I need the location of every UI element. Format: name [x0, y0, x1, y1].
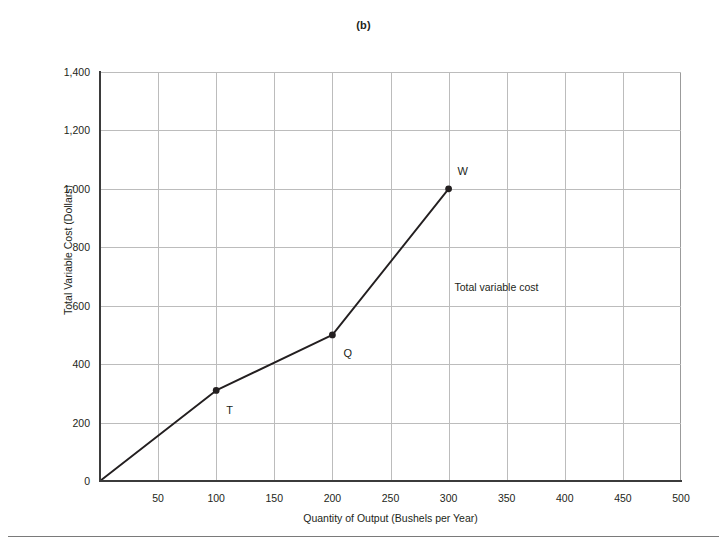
x-axis-tick-label: 400 — [535, 493, 595, 503]
y-axis-tick-label: 800 — [30, 242, 90, 252]
x-axis-tick-label: 250 — [361, 493, 421, 503]
y-axis-tick-label: 1,400 — [30, 67, 90, 77]
series-annotation-total-variable-cost: Total variable cost — [454, 281, 538, 293]
figure-container: (b) TQW Total variable cost 020040060080… — [0, 0, 727, 553]
y-axis-tick-label: 1,200 — [30, 125, 90, 135]
point-label-q: Q — [343, 347, 352, 359]
data-point-marker-t — [213, 387, 220, 394]
point-label-w: W — [458, 165, 468, 177]
x-axis-tick-label: 50 — [128, 493, 188, 503]
x-axis-tick-label: 200 — [302, 493, 362, 503]
y-axis-tick-label: 200 — [30, 418, 90, 428]
series-line-chart — [100, 72, 681, 481]
y-axis-tick-label: 600 — [30, 301, 90, 311]
x-axis-tick-label: 100 — [186, 493, 246, 503]
x-axis-tick-label: 500 — [651, 493, 711, 503]
point-label-t: T — [226, 404, 233, 416]
y-axis-tick-label: 400 — [30, 359, 90, 369]
y-axis-tick-label: 1,000 — [30, 184, 90, 194]
x-axis-tick-label: 300 — [419, 493, 479, 503]
x-axis-title: Quantity of Output (Bushels per Year) — [100, 512, 681, 524]
x-axis-tick-label: 450 — [593, 493, 653, 503]
y-axis-title: Total Variable Cost (Dollars) — [62, 120, 74, 380]
data-point-marker-w — [445, 185, 452, 192]
y-axis-tick-label: 0 — [30, 476, 90, 486]
data-point-marker-q — [329, 332, 336, 339]
x-axis-line — [99, 480, 682, 482]
y-axis-line — [99, 71, 101, 482]
plot-area: TQW Total variable cost — [100, 72, 681, 481]
bottom-divider-rule — [8, 536, 719, 537]
x-axis-tick-label: 150 — [244, 493, 304, 503]
panel-title: (b) — [0, 19, 727, 31]
total-variable-cost-curve — [100, 189, 449, 481]
x-axis-tick-label: 350 — [477, 493, 537, 503]
